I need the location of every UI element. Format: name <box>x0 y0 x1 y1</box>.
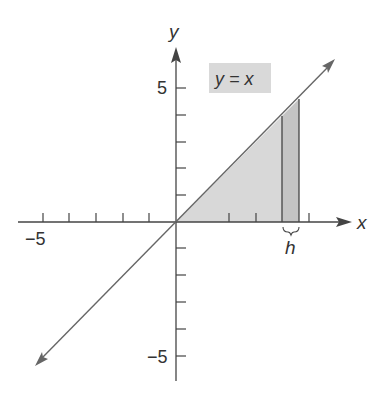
brace-h <box>283 227 299 235</box>
y-tick-label-neg5: −5 <box>147 347 168 367</box>
shaded-strip-h <box>282 99 299 222</box>
x-axis-label: x <box>356 212 368 233</box>
y-axis-label: y <box>167 21 180 42</box>
x-tick-label-neg5: −5 <box>25 229 46 249</box>
equation-label: y = x <box>213 69 255 89</box>
width-label-h: h <box>285 237 296 258</box>
diagram-canvas: y x y = x h −5 5 −5 <box>0 0 392 402</box>
y-tick-label-5: 5 <box>157 78 167 98</box>
